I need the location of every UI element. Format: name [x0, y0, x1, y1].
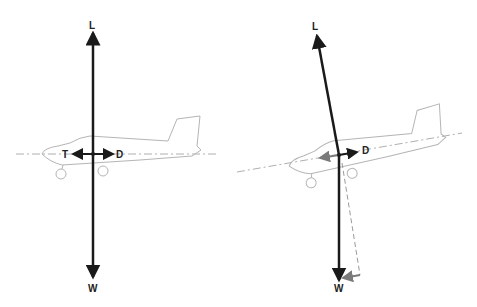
center-of-gravity [337, 153, 341, 157]
weight-label: W [334, 283, 344, 294]
drag-label: D [116, 149, 123, 160]
aircraft-outline [42, 116, 201, 179]
drag-label: D [362, 145, 369, 156]
lift-label: L [89, 20, 95, 31]
thrust-label: T [62, 149, 68, 160]
forces-diagram: L W T D L W D [0, 0, 477, 307]
left-panel-level-flight: L W T D [16, 20, 216, 294]
weight-label: W [88, 283, 98, 294]
lift-label: L [312, 21, 318, 32]
weight-parallel-component-arrow [343, 275, 360, 278]
right-panel-descent: L W D [237, 21, 462, 294]
center-of-gravity [91, 152, 95, 156]
weight-perpendicular-component [342, 163, 360, 275]
thrust-component-arrow [320, 155, 339, 158]
lift-arrow [317, 36, 339, 155]
